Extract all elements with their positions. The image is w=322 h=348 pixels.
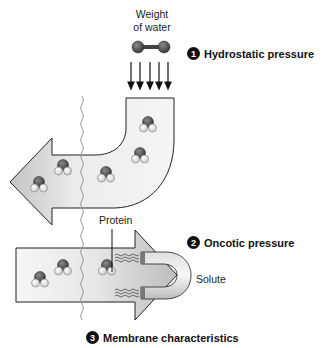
step-oncotic-pressure: 2 Oncotic pressure [187,236,294,249]
step-membrane-characteristics: 3 Membrane characteristics [86,331,239,344]
solute-label: Solute [196,273,226,286]
weight-of-water-label: Weight of water [128,8,176,34]
pressure-arrows-icon [128,62,171,89]
weight-molecule-icon [132,41,170,53]
step-number-badge: 3 [86,331,99,344]
weight-label-line2: of water [128,21,176,34]
step-label: Oncotic pressure [204,237,294,249]
step-label: Membrane characteristics [103,332,239,344]
step-hydrostatic-pressure: 1 Hydrostatic pressure [187,47,314,60]
step-number-badge: 1 [187,47,200,60]
protein-label: Protein [99,214,132,227]
weight-label-line1: Weight [128,8,176,21]
step-label: Hydrostatic pressure [204,48,314,60]
step-number-badge: 2 [187,236,200,249]
